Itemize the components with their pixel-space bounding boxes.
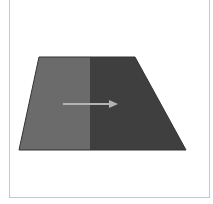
trapezoid-diagram — [0, 0, 213, 204]
